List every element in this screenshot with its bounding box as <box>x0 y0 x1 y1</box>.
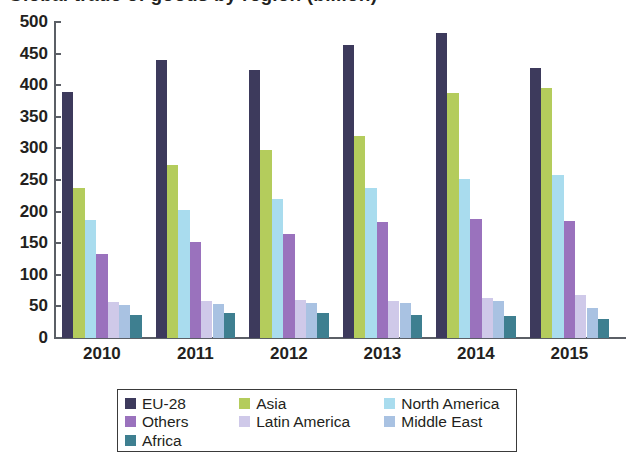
bar-africa-2015 <box>598 319 609 338</box>
legend-label: EU-28 <box>142 396 186 412</box>
legend-label: Latin America <box>256 414 350 430</box>
legend-item-middle-east[interactable]: Middle East <box>384 413 510 432</box>
bar-latin-america-2011 <box>201 301 212 338</box>
bar-others-2011 <box>190 242 201 338</box>
bar-middle-east-2013 <box>400 303 411 338</box>
y-axis-tick <box>54 274 61 276</box>
bar-middle-east-2011 <box>213 304 224 338</box>
legend-label: Asia <box>256 396 286 412</box>
y-axis-tick <box>54 305 61 307</box>
bar-latin-america-2010 <box>108 302 119 338</box>
x-axis-tick-label: 2012 <box>249 344 329 364</box>
legend-row: Africa <box>125 431 510 450</box>
bar-latin-america-2013 <box>388 301 399 338</box>
bar-asia-2015 <box>541 88 552 338</box>
bar-others-2015 <box>564 221 575 338</box>
bar-africa-2012 <box>317 313 328 338</box>
bar-chart-plot-area: 050100150200250300350400450500 201020112… <box>0 0 636 380</box>
bar-others-2012 <box>283 234 294 338</box>
legend-swatch-icon <box>125 416 136 427</box>
bar-eu-28-2014 <box>436 33 447 338</box>
bar-eu-28-2013 <box>343 45 354 338</box>
legend-item-latin-america[interactable]: Latin America <box>239 413 384 432</box>
legend-item-africa[interactable]: Africa <box>125 431 243 450</box>
legend-item-asia[interactable]: Asia <box>239 394 384 413</box>
bars-layer <box>0 0 636 380</box>
x-axis-tick-label: 2014 <box>436 344 516 364</box>
bar-middle-east-2010 <box>119 305 130 338</box>
x-axis-tick-label: 2013 <box>342 344 422 364</box>
y-axis-tick <box>54 116 61 118</box>
bar-asia-2013 <box>354 136 365 338</box>
bar-eu-28-2010 <box>62 92 73 338</box>
legend-label: North America <box>401 396 499 412</box>
bar-middle-east-2014 <box>493 301 504 338</box>
x-axis-tick-label: 2010 <box>62 344 142 364</box>
legend-item-others[interactable]: Others <box>125 413 239 432</box>
bar-africa-2013 <box>411 315 422 338</box>
bar-others-2010 <box>96 254 107 338</box>
bar-north-america-2014 <box>459 179 470 338</box>
bar-asia-2014 <box>447 93 458 338</box>
legend-swatch-icon <box>384 398 395 409</box>
legend-item-eu-28[interactable]: EU-28 <box>125 394 239 413</box>
y-axis-tick <box>54 211 61 213</box>
bar-north-america-2011 <box>178 210 189 338</box>
y-axis-tick <box>54 179 61 181</box>
bar-latin-america-2012 <box>295 300 306 338</box>
bar-north-america-2012 <box>272 199 283 338</box>
x-axis-tick-label: 2015 <box>529 344 609 364</box>
bar-eu-28-2012 <box>249 70 260 338</box>
bar-others-2014 <box>470 219 481 338</box>
y-axis-tick <box>54 242 61 244</box>
bar-middle-east-2012 <box>306 303 317 338</box>
legend-label: Middle East <box>401 414 482 430</box>
bar-north-america-2013 <box>365 188 376 338</box>
bar-africa-2011 <box>224 313 235 338</box>
x-axis-tick-label: 2011 <box>155 344 235 364</box>
bar-latin-america-2014 <box>482 298 493 338</box>
legend-row: OthersLatin AmericaMiddle East <box>125 413 510 432</box>
legend-label: Others <box>142 414 189 430</box>
chart-legend: EU-28AsiaNorth AmericaOthersLatin Americ… <box>117 389 517 452</box>
legend-swatch-icon <box>239 416 250 427</box>
bar-asia-2012 <box>260 150 271 338</box>
legend-swatch-icon <box>125 398 136 409</box>
y-axis-tick <box>54 21 61 23</box>
bar-africa-2010 <box>130 315 141 338</box>
legend-swatch-icon <box>384 416 395 427</box>
x-axis-tick-labels: 201020112012201320142015 <box>0 344 636 370</box>
legend-label: Africa <box>142 433 182 449</box>
bar-north-america-2010 <box>85 220 96 338</box>
bar-latin-america-2015 <box>575 295 586 338</box>
bar-eu-28-2011 <box>156 60 167 338</box>
bar-asia-2011 <box>167 165 178 338</box>
y-axis-tick <box>54 84 61 86</box>
legend-swatch-icon <box>125 435 136 446</box>
bar-eu-28-2015 <box>530 68 541 338</box>
legend-swatch-icon <box>239 398 250 409</box>
bar-africa-2014 <box>504 316 515 338</box>
bar-north-america-2015 <box>552 175 563 338</box>
legend-row: EU-28AsiaNorth America <box>125 394 510 413</box>
bar-asia-2010 <box>73 188 84 338</box>
bar-others-2013 <box>377 222 388 338</box>
y-axis-tick <box>54 147 61 149</box>
y-axis-tick <box>54 53 61 55</box>
bar-middle-east-2015 <box>587 308 598 338</box>
legend-item-north-america[interactable]: North America <box>384 394 510 413</box>
